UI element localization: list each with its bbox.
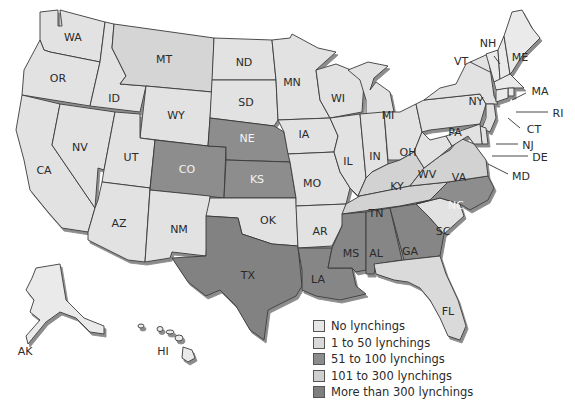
label-il: IL	[343, 155, 353, 168]
label-wy: WY	[167, 109, 185, 122]
state-ri	[508, 88, 514, 96]
legend-item-1-50: 1 to 50 lynchings	[313, 335, 473, 351]
label-ak: AK	[18, 345, 34, 358]
label-co: CO	[179, 163, 196, 176]
label-wa: WA	[64, 31, 82, 44]
state-me	[504, 10, 540, 74]
legend-swatch	[313, 337, 325, 349]
legend-label: 1 to 50 lynchings	[331, 336, 430, 350]
state-ct	[496, 88, 508, 102]
label-id: ID	[108, 92, 120, 105]
legend-swatch	[313, 353, 325, 365]
legend-item-over-300: More than 300 lynchings	[313, 384, 473, 400]
label-mi: MI	[382, 109, 395, 122]
label-md: MD	[512, 170, 530, 183]
label-nm: NM	[170, 223, 188, 236]
label-mn: MN	[283, 76, 301, 89]
label-ri: RI	[553, 107, 564, 120]
label-ok: OK	[260, 214, 277, 227]
label-ut: UT	[124, 151, 139, 164]
state-ak	[26, 264, 104, 344]
legend-label: No lynchings	[331, 319, 405, 333]
label-wv: WV	[418, 168, 437, 181]
label-mo: MO	[303, 177, 321, 190]
label-sc: SC	[436, 225, 451, 238]
legend-swatch	[313, 386, 325, 398]
label-ar: AR	[312, 225, 328, 238]
legend-swatch	[313, 370, 325, 382]
label-al: AL	[369, 247, 384, 260]
label-nd: ND	[236, 56, 253, 69]
label-tx: TX	[240, 269, 256, 282]
label-ky: KY	[390, 180, 404, 193]
label-mt: MT	[156, 53, 172, 66]
map-legend: No lynchings 1 to 50 lynchings 51 to 100…	[313, 318, 473, 401]
legend-label: 51 to 100 lynchings	[331, 352, 445, 366]
label-ga: GA	[402, 245, 419, 258]
legend-item-none: No lynchings	[313, 318, 473, 334]
label-oh: OH	[400, 146, 417, 159]
legend-label: 101 to 300 lynchings	[331, 369, 452, 383]
label-la: LA	[311, 273, 325, 286]
label-ia: IA	[299, 128, 310, 141]
label-ms: MS	[343, 247, 359, 260]
label-pa: PA	[448, 126, 462, 139]
legend-item-51-100: 51 to 100 lynchings	[313, 351, 473, 367]
label-va: VA	[452, 171, 467, 184]
label-ct: CT	[527, 123, 542, 136]
label-ca: CA	[36, 164, 52, 177]
label-in: IN	[369, 150, 380, 163]
label-or: OR	[50, 72, 67, 85]
label-ne: NE	[239, 132, 254, 145]
us-lynchings-map: WA OR CA ID NV MT WY UT AZ CO NM ND SD N…	[0, 0, 575, 409]
label-ks: KS	[250, 173, 264, 186]
label-tn: TN	[368, 207, 384, 220]
legend-label: More than 300 lynchings	[331, 385, 473, 399]
label-ny: NY	[469, 95, 484, 108]
label-fl: FL	[442, 305, 455, 318]
label-sd: SD	[238, 96, 253, 109]
legend-item-101-300: 101 to 300 lynchings	[313, 368, 473, 384]
legend-swatch	[313, 320, 325, 332]
label-me: ME	[512, 51, 528, 64]
label-nc: NC	[448, 199, 464, 212]
label-nv: NV	[72, 141, 88, 154]
label-vt: VT	[454, 55, 469, 68]
label-ma: MA	[531, 85, 548, 98]
label-nh: NH	[480, 37, 497, 50]
label-az: AZ	[111, 217, 127, 230]
label-de: DE	[532, 151, 547, 164]
label-wi: WI	[331, 92, 345, 105]
label-hi: HI	[157, 345, 169, 358]
